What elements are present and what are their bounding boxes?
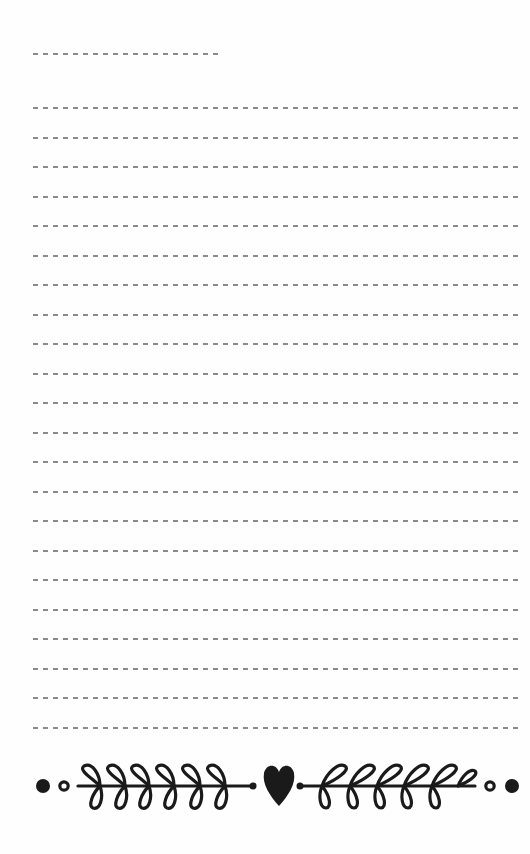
writing-line <box>33 137 523 139</box>
writing-line <box>33 314 523 316</box>
writing-line <box>33 491 523 493</box>
writing-line <box>33 550 523 552</box>
writing-line <box>33 107 523 109</box>
writing-line <box>33 520 523 522</box>
writing-line <box>33 432 523 434</box>
writing-line <box>33 166 523 168</box>
writing-line <box>33 727 523 729</box>
writing-line <box>33 638 523 640</box>
writing-line <box>33 373 523 375</box>
header-line <box>33 53 223 55</box>
writing-line <box>33 461 523 463</box>
filled-dot-icon <box>36 779 50 793</box>
writing-line <box>33 609 523 611</box>
writing-line <box>33 579 523 581</box>
open-circle-icon <box>60 782 68 790</box>
laurel-heart-divider <box>0 752 530 822</box>
writing-line <box>33 402 523 404</box>
writing-line <box>33 343 523 345</box>
notepad-page <box>0 0 530 854</box>
writing-line <box>33 196 523 198</box>
filled-dot-icon <box>505 779 519 793</box>
writing-line <box>33 225 523 227</box>
writing-line <box>33 284 523 286</box>
writing-line <box>33 668 523 670</box>
laurel-branch-right-icon <box>297 765 476 808</box>
writing-line <box>33 697 523 699</box>
laurel-branch-left-icon <box>78 765 257 808</box>
writing-line <box>33 255 523 257</box>
open-circle-icon <box>486 782 494 790</box>
heart-icon <box>264 766 295 806</box>
